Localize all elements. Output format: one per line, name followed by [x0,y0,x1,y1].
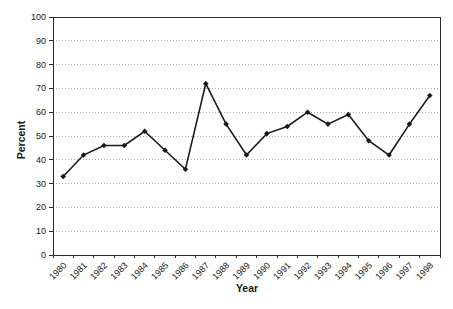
x-tick-label: 1988 [210,260,231,281]
y-tick-label: 10 [36,226,46,236]
x-tick-label: 1993 [312,260,333,281]
y-tick-label: 50 [36,131,46,141]
x-tick-label: 1987 [190,260,211,281]
x-tick-label: 1990 [251,260,272,281]
y-tick-label: 70 [36,83,46,93]
x-tick-label: 1991 [271,260,292,281]
y-tick-label: 60 [36,107,46,117]
x-tick-label: 1980 [47,260,68,281]
data-series [60,81,432,179]
x-tick-label: 1994 [333,260,354,281]
x-tick-label: 1995 [353,260,374,281]
x-tick-label: 1983 [108,260,129,281]
gridlines [53,41,440,231]
chart-figure: 0102030405060708090100198019811982198319… [0,0,453,309]
x-tick-label: 1985 [149,260,170,281]
x-tick-label: 1992 [292,260,313,281]
y-tick-label: 90 [36,36,46,46]
plot-border [53,17,440,255]
x-tick-label: 1998 [414,260,435,281]
y-axis-title: Percent [15,120,27,159]
y-tick-label: 80 [36,60,46,70]
x-tick-label: 1997 [394,260,415,281]
x-tick-label: 1984 [129,260,150,281]
x-tick-label: 1982 [88,260,109,281]
line-chart: 0102030405060708090100198019811982198319… [0,0,453,309]
x-tick-label: 1989 [231,260,252,281]
y-tick-label: 20 [36,202,46,212]
x-tick-label: 1981 [68,260,89,281]
axes [49,17,440,258]
x-tick-label: 1996 [373,260,394,281]
y-tick-label: 40 [36,155,46,165]
y-tick-label: 100 [31,12,46,22]
x-tick-label: 1986 [170,260,191,281]
data-point-marker [101,143,107,149]
y-tick-label: 0 [41,250,46,260]
tick-labels: 0102030405060708090100198019811982198319… [31,12,435,282]
x-axis-title: Year [236,282,258,294]
data-point-marker [203,81,209,87]
y-tick-label: 30 [36,179,46,189]
series-line [63,84,430,177]
